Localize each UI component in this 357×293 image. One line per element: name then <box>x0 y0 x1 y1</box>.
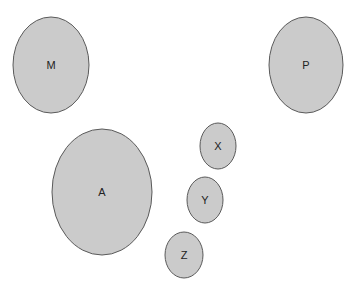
node-label: A <box>98 186 106 198</box>
node-p: P <box>269 17 343 113</box>
node-z: Z <box>165 232 203 278</box>
node-x: X <box>200 123 236 169</box>
node-label: Y <box>201 194 209 206</box>
node-m: M <box>13 17 89 113</box>
node-label: Z <box>181 249 188 261</box>
node-label: P <box>302 59 309 71</box>
diagram-canvas: M P A X Y Z <box>0 0 357 293</box>
node-y: Y <box>187 177 223 223</box>
node-label: M <box>46 59 55 71</box>
node-a: A <box>52 129 152 255</box>
node-label: X <box>214 140 222 152</box>
